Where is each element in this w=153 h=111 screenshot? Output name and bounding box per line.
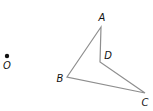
point-o-label: O <box>3 60 11 71</box>
point-b-label: B <box>57 73 64 84</box>
geometry-diagram: O A B C D <box>0 0 153 111</box>
point-o-dot <box>5 54 9 58</box>
point-a-label: A <box>98 12 106 23</box>
point-c-label: C <box>142 97 149 108</box>
point-d-label: D <box>104 50 112 61</box>
